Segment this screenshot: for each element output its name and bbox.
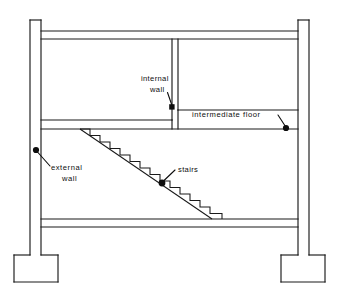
roof-slab <box>41 31 298 39</box>
structural-frame <box>14 20 325 282</box>
stairs-marker-dot <box>159 180 166 187</box>
external-wall-leader-line <box>38 152 51 166</box>
right-footing-pad <box>281 255 325 282</box>
intermediate-floor-marker-dot <box>283 125 289 131</box>
intermediate-floor-leader-line <box>278 115 286 127</box>
external-wall-label-line2: wall <box>61 174 77 183</box>
external-wall-left-column <box>30 20 41 255</box>
staircase <box>80 129 222 219</box>
external-wall-label-line1: external <box>51 163 82 172</box>
stair-steps-profile <box>80 129 222 219</box>
section-diagram-canvas: internal wall intermediate floor externa… <box>0 0 339 295</box>
ground-floor-slab <box>41 219 298 227</box>
internal-wall-label-line2: wall <box>149 85 164 94</box>
external-wall-marker-dot <box>33 147 39 153</box>
external-wall-right-column <box>298 20 309 255</box>
internal-wall-marker-square <box>169 104 174 109</box>
stairs-leader-line <box>164 170 176 181</box>
intermediate-floor-label: intermediate floor <box>192 110 261 119</box>
stairs-label: stairs <box>178 165 198 174</box>
stair-soffit-line <box>80 129 212 219</box>
internal-wall-label-line1: internal <box>141 74 169 83</box>
internal-wall-leader-line <box>168 93 173 106</box>
left-footing-pad <box>14 255 58 282</box>
annotation-leaders <box>33 93 289 187</box>
building-section-drawing: internal wall intermediate floor externa… <box>0 0 339 295</box>
